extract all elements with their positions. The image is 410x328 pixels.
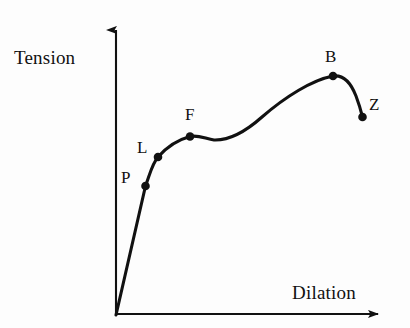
data-point-Z [358,113,367,122]
point-label-Z: Z [369,96,379,113]
x-axis-label: Dilation [292,283,356,302]
point-label-L: L [137,139,147,156]
curve-elastic-segment [116,186,146,315]
figure-container: Tension Dilation P L F B Z [0,0,410,328]
y-axis-label: Tension [14,48,75,67]
point-label-F: F [185,106,194,123]
data-point-B [329,72,338,81]
curve-plastic-segment [146,76,363,186]
data-point-P [141,182,150,191]
point-label-B: B [325,48,336,65]
data-point-L [154,153,163,162]
data-point-F [186,132,195,141]
point-label-P: P [121,169,130,186]
